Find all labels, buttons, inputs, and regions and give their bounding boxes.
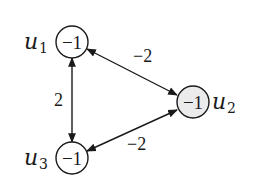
edge-u1-u3: 2 xyxy=(54,58,72,142)
node-name: u xyxy=(212,89,226,114)
edge-weight-u1-u3: 2 xyxy=(54,90,63,110)
node-value: −1 xyxy=(62,148,82,169)
node-subscript: 2 xyxy=(227,100,236,116)
node-value: −1 xyxy=(183,92,203,113)
node-name: u xyxy=(24,145,38,170)
node-u2: −1 u 2 xyxy=(177,86,236,118)
edge-u3-u2: −2 xyxy=(87,110,177,154)
node-subscript: 1 xyxy=(39,40,48,56)
node-u1: −1 u 1 xyxy=(24,26,88,58)
node-subscript: 3 xyxy=(39,156,48,172)
edge-u1-u2: −2 xyxy=(87,46,177,95)
node-value: −1 xyxy=(62,32,82,53)
node-name: u xyxy=(24,29,38,54)
edge-weight-u1-u2: −2 xyxy=(133,46,152,66)
graph-diagram: −2 2 −2 −1 u 1 −1 u 2 −1 u 3 xyxy=(0,0,259,184)
edge-weight-u3-u2: −2 xyxy=(127,134,146,154)
bidirectional-arrow-icon xyxy=(87,49,177,95)
node-u3: −1 u 3 xyxy=(24,142,88,174)
